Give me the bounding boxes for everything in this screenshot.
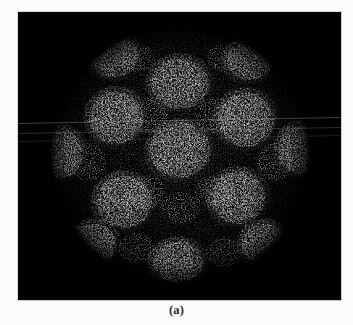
viral-capsid-image	[18, 12, 341, 300]
micrograph-frame	[18, 12, 341, 300]
figure-panel: (a)	[0, 0, 353, 325]
figure-caption: (a)	[0, 303, 353, 318]
